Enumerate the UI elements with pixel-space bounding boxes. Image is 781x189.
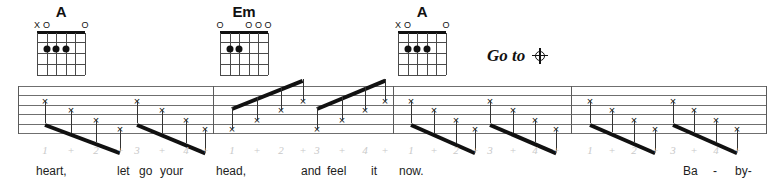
- fretboard-grid: [220, 31, 268, 75]
- count-label: +: [67, 145, 74, 156]
- count-label: +: [651, 145, 658, 156]
- string-line: [239, 33, 240, 75]
- open-string-marker-icon: O: [442, 21, 449, 30]
- finger-dot: [43, 45, 50, 52]
- string-line: [47, 33, 48, 75]
- open-muted-string-markers: XOO: [387, 21, 457, 31]
- staff-line: [18, 95, 766, 96]
- string-line: [398, 33, 399, 75]
- count-label: 2: [631, 145, 637, 156]
- lyric-syllable: and: [301, 165, 321, 177]
- lyric-syllable: your: [160, 165, 183, 177]
- count-label: 3: [134, 145, 140, 156]
- fret-line: [37, 42, 85, 43]
- note-stem: [694, 110, 695, 132]
- note-stem: [232, 107, 233, 129]
- count-label: +: [733, 145, 740, 156]
- count-label: 1: [408, 145, 414, 156]
- lyric-syllable: by-: [735, 165, 752, 177]
- note-stem: [257, 97, 258, 120]
- note-stem: [96, 120, 97, 142]
- count-label: 2: [278, 145, 284, 156]
- go-to-coda-direction: Go to: [487, 47, 548, 64]
- nut: [398, 31, 446, 34]
- note-stem: [342, 97, 343, 120]
- coda-ring: [535, 51, 545, 61]
- open-string-marker-icon: O: [81, 21, 88, 30]
- fret-line: [220, 53, 268, 54]
- fret-line: [37, 75, 85, 76]
- count-label: +: [201, 145, 208, 156]
- finger-dot: [53, 45, 60, 52]
- count-label: 4: [362, 145, 368, 156]
- open-string-marker-icon: O: [216, 21, 223, 30]
- count-label: +: [299, 145, 306, 156]
- note-stem: [434, 110, 435, 133]
- lyric-syllable: feel: [327, 165, 346, 177]
- count-label: +: [690, 145, 697, 156]
- count-label: 1: [587, 145, 593, 156]
- chord-name-label: Em: [209, 4, 279, 19]
- count-label: +: [509, 145, 516, 156]
- count-label: +: [253, 145, 260, 156]
- open-muted-string-markers: OOOO: [209, 21, 279, 31]
- barline: [18, 86, 19, 134]
- fret-line: [37, 53, 85, 54]
- chord-name-label: A: [26, 4, 96, 19]
- string-line: [66, 33, 67, 75]
- string-line: [249, 33, 250, 75]
- count-label: 4: [183, 145, 189, 156]
- note-stem: [162, 110, 163, 133]
- direction-label: Go to: [487, 47, 525, 64]
- lyric-syllable: head,: [216, 165, 246, 177]
- note-stem: [456, 120, 457, 143]
- staff-line: [18, 114, 766, 115]
- chord-name-label: A: [387, 4, 457, 19]
- fret-line: [37, 64, 85, 65]
- chord-diagram-em-2: EmOOOO: [209, 4, 279, 78]
- count-label: 1: [42, 145, 48, 156]
- finger-dot: [62, 45, 69, 52]
- lyric-syllable: Ba: [683, 165, 698, 177]
- lyric-syllable: -: [713, 165, 717, 177]
- fret-line: [398, 42, 446, 43]
- nut: [37, 31, 85, 34]
- note-stem: [303, 79, 304, 101]
- note-stem: [137, 101, 138, 123]
- note-stem: [281, 88, 282, 111]
- string-line: [417, 33, 418, 75]
- string-line: [436, 33, 437, 75]
- count-label: +: [158, 145, 165, 156]
- fret-line: [220, 75, 268, 76]
- count-label: 4: [532, 145, 538, 156]
- count-label: 2: [93, 145, 99, 156]
- finger-dot: [404, 45, 411, 52]
- string-line: [220, 33, 221, 75]
- fret-line: [220, 64, 268, 65]
- chord-diagram-a-3: AXOO: [387, 4, 457, 78]
- finger-dot: [423, 45, 430, 52]
- nut: [220, 31, 268, 34]
- note-stem: [535, 120, 536, 142]
- lyric-syllable: let: [117, 165, 130, 177]
- fret-line: [220, 42, 268, 43]
- string-line: [56, 33, 57, 75]
- fretboard-grid: [37, 31, 85, 75]
- note-stem: [71, 110, 72, 132]
- count-label: 3: [314, 145, 320, 156]
- barline: [393, 86, 394, 134]
- note-stem: [45, 101, 46, 123]
- count-label: +: [471, 145, 478, 156]
- lyric-syllable: heart,: [36, 165, 67, 177]
- count-label: +: [116, 145, 123, 156]
- open-muted-string-markers: XOO: [26, 21, 96, 31]
- note-stem: [186, 120, 187, 144]
- string-line: [446, 33, 447, 75]
- note-stem: [590, 101, 591, 123]
- open-string-marker-icon: O: [404, 21, 411, 30]
- string-line: [427, 33, 428, 75]
- count-label: 2: [453, 145, 459, 156]
- lyric-syllable: now.: [399, 165, 424, 177]
- fretboard-grid: [398, 31, 446, 75]
- finger-dot: [226, 45, 233, 52]
